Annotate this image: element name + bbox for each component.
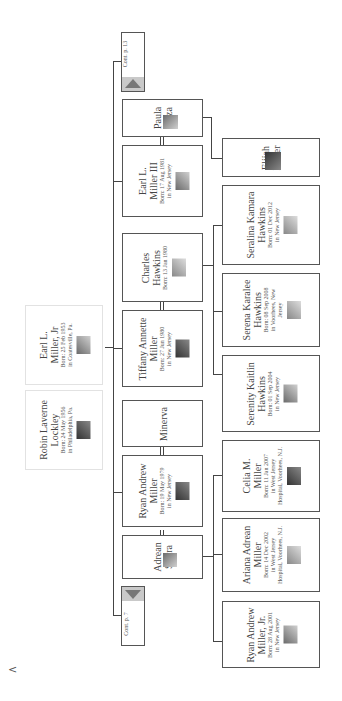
cont-page-7-box[interactable]: Cont. p. 7 <box>121 586 145 646</box>
birth-date: Born: 24 May 1956 <box>60 406 67 453</box>
person-card-tiffany-miller[interactable]: Tiffany Annette Miller Born: 27 Jun 1980… <box>122 310 203 387</box>
person-name: Seralina Kamara <box>245 192 256 259</box>
person-card-elijah-miller[interactable]: Elijah Miller <box>222 138 320 177</box>
person-name: Miller, Jr <box>49 327 60 364</box>
cont-label: Cont. p. 7 <box>123 612 129 636</box>
person-name: Earl L. <box>38 331 49 359</box>
person-name: Miller <box>252 543 263 568</box>
person-card-charles-hawkins[interactable]: Charles Hawkins Born: 13 Jan 1980 <box>122 233 203 302</box>
person-name: Hawkins <box>252 292 263 328</box>
person-name: Ariana Adrean <box>241 526 252 585</box>
cont-page-13-box[interactable]: Cont. p. 13 <box>121 32 145 92</box>
person-name: Miller <box>252 464 263 489</box>
down-arrow-icon <box>122 587 144 601</box>
portrait-photo <box>287 301 301 319</box>
person-card-ryan-miller-jr[interactable]: Ryan Andrew Miller, Jr. Born: 28 Aug 200… <box>222 601 320 668</box>
person-name: Minerva <box>157 407 168 441</box>
birth-place: in New Jersey <box>274 208 281 242</box>
portrait-photo <box>287 467 301 485</box>
parent-card-earl-jr[interactable]: Earl L. Miller, Jr Born: 25 Feb 1953 in … <box>25 305 103 385</box>
person-name: Hawkins <box>256 207 267 243</box>
portrait-photo <box>175 172 189 190</box>
birth-date: Born: 01 Sep 2004 <box>267 371 274 416</box>
person-name: Miller <box>147 336 158 361</box>
birth-place: in New Jersey <box>274 377 281 411</box>
parent-card-robin[interactable]: Robin Laverne Lockley Born: 24 May 1956 … <box>25 390 103 470</box>
connector-hawkins-kids <box>213 225 222 226</box>
birth-place: Hospital, Voorhees, N.J. <box>277 526 284 584</box>
birth-place: in New Jersey <box>165 474 172 508</box>
birth-place: Jersey <box>277 303 284 318</box>
birth-place: in West Jersey <box>270 459 277 493</box>
connector-hawkins-kids <box>213 374 222 375</box>
person-name: Paula <box>152 107 163 129</box>
person-card-ariana-miller[interactable]: Ariana Adrean Miller Born: 14 Dec 2002 i… <box>222 518 320 592</box>
person-name: Ryan Andrew <box>136 464 147 519</box>
portrait-photo <box>77 421 91 439</box>
connector-miller-kids <box>213 641 222 642</box>
birth-date: Born: 19 May 1979 <box>158 467 165 514</box>
connector-miller-kids <box>213 475 214 642</box>
connector-ryan <box>113 492 122 493</box>
birth-date: Born: 01 Dec 2012 <box>267 202 274 248</box>
person-card-serena-hawkins[interactable]: Serena Karalee Hawkins Born: 08 Sep 2008… <box>222 273 320 347</box>
connector-cont-top <box>113 61 121 62</box>
person-card-celia-miller[interactable]: Celia M. Miller Born: 11 Jan 2007 in Wes… <box>222 440 320 512</box>
person-name: Serenity Kaitlin <box>245 362 256 426</box>
person-card-minerva[interactable]: Minerva <box>122 400 203 447</box>
person-card-ryan-miller[interactable]: Ryan Andrew Miller Born: 19 May 1979 in … <box>122 455 203 527</box>
person-name: Charles <box>140 252 151 283</box>
birth-place: in New Jersey <box>274 618 281 652</box>
birth-place: in Voorhees, New <box>270 289 277 332</box>
birth-date: Born: 08 Sep 2008 <box>263 287 270 332</box>
cont-label: Cont. p. 13 <box>122 41 128 68</box>
person-name: Earl L. <box>136 167 147 195</box>
person-card-earl-iii[interactable]: Earl L. Miller III Born: 17 Aug 1981 in … <box>122 145 203 217</box>
birth-date: Born: 27 Jun 1980 <box>158 326 165 371</box>
person-name: Miller, Jr. <box>256 615 267 654</box>
person-card-adrean-sierra[interactable]: Adrean Sierra <box>122 535 203 579</box>
connector-miller-kids <box>213 475 222 476</box>
connector-elijah <box>211 117 212 159</box>
portrait-photo <box>175 482 189 500</box>
portrait-photo <box>77 336 91 354</box>
connector-elijah <box>211 158 222 159</box>
portrait-photo <box>284 216 298 234</box>
birth-place: in West Jersey <box>270 538 277 572</box>
person-name: Miller <box>147 479 158 504</box>
up-arrow-icon <box>122 77 144 91</box>
connector-tiffany <box>113 348 122 349</box>
portrait-photo <box>175 340 189 358</box>
person-card-seralina-hawkins[interactable]: Seralina Kamara Hawkins Born: 01 Dec 201… <box>222 185 320 265</box>
person-name: Lockley <box>49 414 60 447</box>
person-name: Ryan Andrew <box>245 607 256 662</box>
portrait-photo <box>172 259 186 277</box>
person-name: Miller III <box>147 162 158 200</box>
connector-cont-bottom <box>113 615 121 616</box>
birth-date: Born: 11 Jan 2007 <box>263 454 270 498</box>
connector-hawkins-kids <box>213 225 214 375</box>
back-chevron-icon[interactable]: < <box>8 663 17 676</box>
birth-place: in Philadelphia, Pa. <box>67 407 74 454</box>
portrait-photo <box>284 626 298 644</box>
person-name: Hawkins <box>151 250 162 286</box>
portrait-photo <box>163 553 177 567</box>
connector-hawkins-kids <box>213 311 222 312</box>
connector-earl-iii <box>113 181 122 182</box>
person-name: Serena Karalee <box>241 280 252 341</box>
person-card-serenity-hawkins[interactable]: Serenity Kaitlin Hawkins Born: 01 Sep 20… <box>222 355 320 432</box>
birth-date: Born: 28 Aug 2001 <box>267 611 274 657</box>
birth-date: Born: 25 Feb 1953 <box>60 322 67 367</box>
connector-miller-kids <box>213 554 222 555</box>
birth-place: in New Jersey <box>165 164 172 198</box>
birth-place: Hospital, Voorhees, N.J. <box>277 447 284 505</box>
trunk-line <box>113 61 114 616</box>
portrait-photo <box>163 115 178 129</box>
portrait-photo <box>284 385 298 403</box>
birth-place: in New Jersey <box>165 332 172 366</box>
person-card-paula-plaza[interactable]: Paula Plaza <box>122 99 203 137</box>
person-name: Celia M. <box>241 459 252 494</box>
portrait-photo <box>265 152 281 170</box>
portrait-photo <box>287 546 301 564</box>
birth-date: Born: 17 Aug 1981 <box>158 158 165 204</box>
